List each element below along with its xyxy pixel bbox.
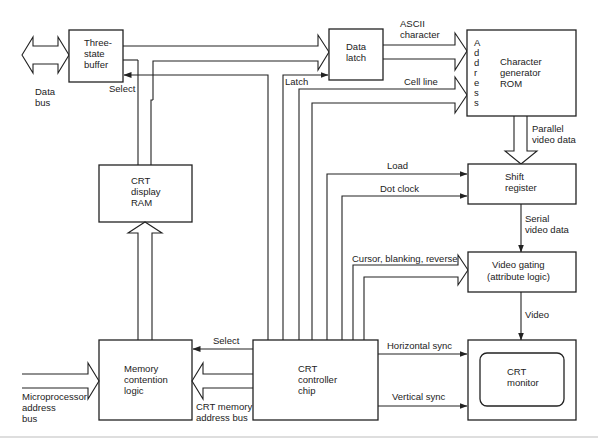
crt-memory-address-bus-label: CRT memory address bus (196, 401, 255, 423)
ram-to-buffer-bus (138, 100, 153, 165)
crt-display-block-diagram: Three- state buffer Data bus Data latch … (0, 0, 598, 445)
latch-label: Latch (285, 76, 308, 87)
load-label: Load (387, 160, 408, 171)
latch-signal-line (283, 75, 328, 340)
serial-video-data-label: Serial video data (525, 213, 570, 235)
video-label: Video (525, 309, 549, 320)
video-gating-label: Video gating (attribute logic) (487, 259, 550, 282)
crt-memory-address-bus-arrow (192, 363, 253, 399)
parallel-video-data-label: Parallel video data (532, 123, 577, 145)
select-top-label: Select (109, 83, 136, 94)
dot-clock-label: Dot clock (380, 183, 419, 194)
select-bottom-label: Select (213, 335, 240, 346)
vertical-sync-label: Vertical sync (392, 391, 446, 402)
data-bus-arrow (22, 37, 69, 73)
cursor-blanking-reverse-label: Cursor, blanking, reverse (352, 253, 458, 264)
buffer-to-latch-bus (123, 35, 329, 100)
contention-to-ram-bus (128, 222, 162, 340)
horizontal-sync-label: Horizontal sync (387, 340, 452, 351)
cell-line-label: Cell line (404, 76, 438, 87)
ascii-character-label: ASCII character (400, 18, 440, 40)
cell-line-bus (299, 77, 467, 355)
microprocessor-address-bus-label: Microprocessor address bus (22, 391, 90, 424)
dot-clock-signal-line (342, 196, 467, 355)
data-bus-label: Data bus (35, 86, 58, 108)
data-latch-label: Data latch (346, 41, 369, 63)
